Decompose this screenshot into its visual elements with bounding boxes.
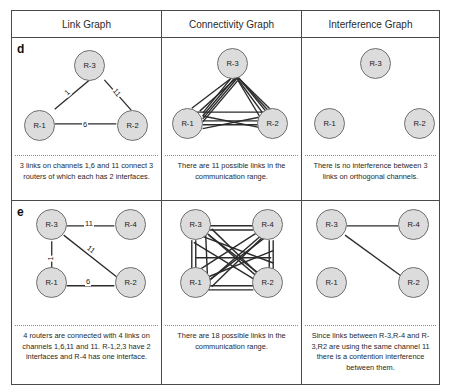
node-label: R-4 [261, 220, 273, 229]
node-label: R-1 [325, 278, 337, 287]
row-letter-d: d [17, 42, 24, 56]
column-header-link-graph: Link Graph [12, 11, 162, 37]
node-label: R-1 [189, 278, 201, 287]
node-r1[interactable]: R-1 [36, 267, 67, 298]
node-r2[interactable]: R-2 [117, 110, 148, 141]
node-label: R-2 [266, 119, 278, 128]
cell-e-connectivity-graph: R-3 R-4 R-1 R-2 There are 18 possible li… [162, 201, 302, 384]
node-r4[interactable]: R-4 [252, 209, 283, 240]
caption-e-link: 4 routers are connected with 4 links on … [12, 326, 161, 384]
table-row-e: e R-3 R-4 R-1 R-2 [12, 201, 439, 384]
cell-d-connectivity-graph: R-3 R-1 R-2 There are 11 possible links … [162, 38, 302, 200]
edge-label-r1-r2: 6 [85, 277, 91, 286]
node-r3[interactable]: R-3 [217, 48, 248, 79]
node-label: R-2 [124, 278, 136, 287]
node-r3[interactable]: R-3 [74, 50, 105, 81]
node-label: R-4 [124, 220, 136, 229]
graph-d-link: R-3 R-1 R-2 1 11 6 [12, 38, 161, 155]
node-r1[interactable]: R-1 [24, 110, 55, 141]
node-label: R-3 [369, 59, 381, 68]
cell-d-link-graph: R-3 R-1 R-2 1 11 6 3 links on channels 1… [12, 38, 162, 200]
node-label: R-3 [226, 59, 238, 68]
column-header-label: Interference Graph [329, 19, 413, 30]
node-label: R-4 [407, 220, 419, 229]
node-r3[interactable]: R-3 [36, 209, 67, 240]
caption-d-interference: There is no interference between 3 links… [302, 156, 439, 200]
node-r1[interactable]: R-1 [314, 108, 345, 139]
node-r4[interactable]: R-4 [398, 209, 429, 240]
node-r2[interactable]: R-2 [252, 267, 283, 298]
caption-e-interference: Since links between R-3,R-4 and R-3,R2 a… [302, 326, 439, 384]
graph-e-link: R-3 R-4 R-1 R-2 11 11 1 6 [12, 201, 161, 325]
figure-table: Link Graph Connectivity Graph Interferen… [11, 10, 440, 385]
caption-e-connectivity: There are 18 possible links in the commu… [162, 326, 301, 384]
column-header-label: Connectivity Graph [189, 19, 274, 30]
cell-d-interference-graph: R-3 R-1 R-2 There is no interference bet… [302, 38, 439, 200]
node-label: R-3 [189, 220, 201, 229]
table-row-d: d R-3 R-1 R-2 1 11 6 [12, 38, 439, 201]
edge-r3-r2 [64, 235, 122, 280]
node-label: R-1 [323, 119, 335, 128]
node-label: R-3 [325, 220, 337, 229]
node-label: R-1 [45, 278, 57, 287]
graph-d-connectivity: R-3 R-1 R-2 [162, 38, 301, 155]
graph-d-interference: R-3 R-1 R-2 [302, 38, 439, 155]
node-r1[interactable]: R-1 [172, 108, 203, 139]
node-r2[interactable]: R-2 [257, 108, 288, 139]
node-r2[interactable]: R-2 [404, 108, 435, 139]
caption-d-connectivity: There are 11 possible links in the commu… [162, 156, 301, 200]
node-r2[interactable]: R-2 [398, 267, 429, 298]
node-r3[interactable]: R-3 [180, 209, 211, 240]
edge-label-r1-r2: 6 [82, 120, 88, 129]
node-r1[interactable]: R-1 [316, 267, 347, 298]
node-label: R-3 [83, 61, 95, 70]
node-label: R-1 [181, 119, 193, 128]
node-label: R-2 [407, 278, 419, 287]
graph-e-connectivity: R-3 R-4 R-1 R-2 [162, 201, 301, 325]
edge-r1-r3 [55, 80, 90, 109]
graph-e-interference: R-3 R-4 R-1 R-2 [302, 201, 439, 325]
cell-e-interference-graph: R-3 R-4 R-1 R-2 Since links between R-3,… [302, 201, 439, 384]
node-label: R-2 [413, 119, 425, 128]
node-r2[interactable]: R-2 [115, 267, 146, 298]
node-r3[interactable]: R-3 [316, 209, 347, 240]
column-header-label: Link Graph [62, 19, 111, 30]
node-label: R-2 [126, 121, 138, 130]
caption-d-link: 3 links on channels 1,6 and 11 connect 3… [12, 156, 161, 200]
edge-label-r3-r1: 1 [46, 255, 55, 261]
column-header-connectivity-graph: Connectivity Graph [162, 11, 302, 37]
row-letter-e: e [17, 205, 24, 219]
cell-e-link-graph: R-3 R-4 R-1 R-2 11 11 1 6 4 routers are … [12, 201, 162, 384]
node-r3[interactable]: R-3 [360, 48, 391, 79]
column-header-interference-graph: Interference Graph [302, 11, 439, 37]
node-r1[interactable]: R-1 [180, 267, 211, 298]
node-label: R-2 [261, 278, 273, 287]
edge-r3-r2 [345, 235, 406, 279]
node-r4[interactable]: R-4 [115, 209, 146, 240]
edge-label-r3-r4: 11 [84, 219, 94, 228]
table-header-row: Link Graph Connectivity Graph Interferen… [12, 11, 439, 38]
node-label: R-1 [33, 121, 45, 130]
node-label: R-3 [45, 220, 57, 229]
